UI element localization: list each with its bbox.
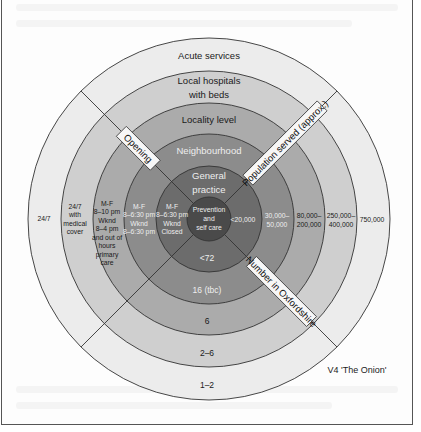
opening-hours-locality-level: Wknd	[98, 217, 116, 224]
opening-hours-general-practice: Closed	[161, 228, 182, 235]
number-acute-services: 1–2	[200, 380, 214, 390]
population-local-hospitals: 250,000–	[327, 212, 356, 219]
opening-hours-locality-level: care	[100, 259, 113, 266]
service-label-prevention: Prevention	[193, 206, 226, 213]
opening-hours-acute-services: 24/7	[37, 215, 50, 222]
opening-hours-local-hospitals: medical	[63, 220, 87, 227]
opening-hours-neighbourhood: Wknd	[130, 220, 148, 227]
number-general-practice: <72	[200, 253, 215, 263]
opening-hours-local-hospitals: 24/7	[68, 203, 81, 210]
service-label-locality-level: Locality level	[182, 114, 236, 125]
opening-hours-general-practice: M-F	[166, 203, 178, 210]
service-label-general-practice: practice	[192, 184, 225, 195]
opening-hours-locality-level: primary	[96, 251, 119, 259]
opening-hours-locality-level: M-F	[101, 200, 113, 207]
opening-hours-neighbourhood: 8–6:30 pm	[123, 211, 155, 219]
population-acute-services: 750,000	[360, 216, 385, 223]
service-label-acute-services: Acute services	[178, 50, 240, 61]
onion-diagram: OpeningPopulation served (approx.)Number…	[0, 0, 421, 432]
service-label-local-hospitals: Local hospitals	[178, 75, 241, 86]
service-label-prevention: and	[203, 215, 215, 222]
opening-hours-locality-level: 8–10 pm	[94, 208, 121, 216]
service-label-prevention: self care	[196, 224, 222, 231]
opening-hours-neighbourhood: 8–6:30 pm	[123, 228, 155, 236]
population-general-practice: <20,000	[231, 216, 256, 223]
service-label-general-practice: General	[192, 170, 226, 181]
opening-hours-locality-level: hours	[98, 242, 116, 249]
opening-hours-local-hospitals: cover	[67, 228, 84, 235]
population-neighbourhood: 30,000–	[265, 212, 290, 219]
opening-hours-general-practice: 8–6:30 pm	[156, 211, 188, 219]
opening-hours-locality-level: and out of	[92, 234, 122, 241]
population-locality-level: 80,000–	[297, 212, 322, 219]
population-neighbourhood: 50,000	[267, 221, 288, 228]
service-label-neighbourhood: Neighbourhood	[177, 145, 242, 156]
opening-hours-general-practice: Wknd	[163, 220, 181, 227]
number-locality-level: 6	[205, 316, 210, 326]
number-local-hospitals: 2–6	[200, 348, 214, 358]
opening-hours-locality-level: 8–4 pm	[96, 225, 119, 233]
opening-hours-neighbourhood: M-F	[133, 203, 145, 210]
service-label-local-hospitals: with beds	[188, 89, 229, 100]
population-local-hospitals: 400,000	[329, 221, 354, 228]
opening-hours-local-hospitals: with	[68, 211, 81, 218]
diagram-title: V4 'The Onion'	[328, 365, 387, 375]
number-neighbourhood: 16 (tbc)	[193, 285, 222, 295]
population-locality-level: 200,000	[297, 221, 322, 228]
